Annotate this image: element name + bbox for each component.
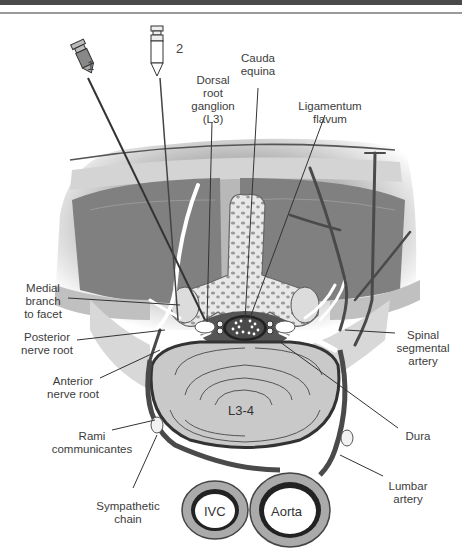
needle-2-label: 2 (176, 41, 183, 56)
label-aorta: Aorta (271, 504, 302, 519)
intervertebral-disc (151, 342, 339, 448)
label-ivc: IVC (204, 504, 226, 519)
label-spinal-segmental-artery: Spinal segmental artery (390, 329, 456, 368)
label-rami-communicantes: Rami communicantes (47, 430, 137, 456)
sympathetic-ganglion-left (151, 417, 163, 433)
dorsal-root-ganglion-left (195, 321, 215, 333)
needle-1-label: 1 (87, 58, 94, 73)
label-disc-l3-4: L3-4 (228, 403, 254, 418)
sympathetic-ganglion-right (341, 430, 353, 446)
label-posterior-nerve-root: Posterior nerve root (14, 331, 80, 357)
label-dorsal-root-ganglion: Dorsal root ganglion (L3) (188, 74, 238, 126)
label-medial-branch: Medial branch to facet (18, 282, 68, 321)
label-dura: Dura (398, 430, 438, 443)
label-lumbar-artery: Lumbar artery (383, 480, 433, 506)
label-cauda-equina: Cauda equina (233, 52, 283, 78)
label-sympathetic-chain: Sympathetic chain (88, 500, 168, 526)
label-anterior-nerve-root: Anterior nerve root (40, 375, 106, 401)
dorsal-root-ganglion-right (275, 321, 295, 333)
label-ligamentum-flavum: Ligamentum flavum (290, 100, 370, 126)
